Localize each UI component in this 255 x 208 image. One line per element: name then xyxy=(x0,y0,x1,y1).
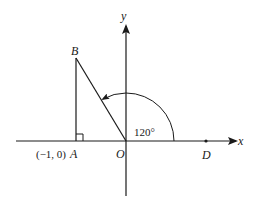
x-axis-label: x xyxy=(237,134,244,148)
point-d-dot xyxy=(204,139,207,142)
y-axis-label: y xyxy=(120,9,127,23)
point-b-label: B xyxy=(71,44,79,58)
right-angle-mark xyxy=(76,134,83,141)
segment-bo xyxy=(76,58,126,141)
origin-label: O xyxy=(116,147,125,161)
point-a-coord-label: (−1, 0) xyxy=(36,148,66,161)
angle-label: 120° xyxy=(134,126,155,138)
coordinate-diagram: y x B (−1, 0) A O D 120° xyxy=(0,0,255,208)
point-d-label: D xyxy=(201,148,211,162)
point-a-label: A xyxy=(69,147,78,161)
